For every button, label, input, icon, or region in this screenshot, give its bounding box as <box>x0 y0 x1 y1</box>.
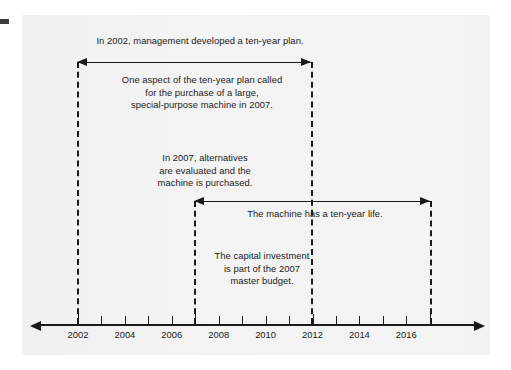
annotation-ten-year-plan: In 2002, management developed a ten-year… <box>0 35 400 48</box>
annotation-plan-aspect: One aspect of the ten-year plan called f… <box>22 74 382 112</box>
axis-tick-2005 <box>148 316 149 324</box>
axis-tick-2006 <box>172 316 173 324</box>
axis-label-2016: 2016 <box>386 329 426 340</box>
time-axis <box>40 324 475 326</box>
axis-tick-2002 <box>78 314 79 324</box>
axis-tick-2007 <box>195 314 196 324</box>
axis-tick-2012 <box>313 314 314 324</box>
span-arrow-machine-life <box>194 201 430 202</box>
marker-line-2002 <box>77 62 79 324</box>
axis-label-2010: 2010 <box>246 329 286 340</box>
axis-tick-2017 <box>430 314 431 324</box>
timeline-figure: In 2002, management developed a ten-year… <box>0 0 511 370</box>
arrowhead-left-icon <box>77 58 87 66</box>
marker-line-2012 <box>311 62 313 324</box>
axis-tick-2011 <box>289 316 290 324</box>
arrowhead-left-icon <box>194 197 204 205</box>
marker-line-2007 <box>194 201 196 324</box>
axis-tick-2009 <box>242 316 243 324</box>
annotation-alternatives: In 2007, alternatives are evaluated and … <box>60 152 350 190</box>
span-arrow-ten-year-plan <box>77 62 311 63</box>
scan-edge-mark <box>0 19 9 24</box>
axis-label-2004: 2004 <box>105 329 145 340</box>
axis-arrowhead-left-icon <box>30 321 41 331</box>
axis-label-2008: 2008 <box>199 329 239 340</box>
axis-label-2014: 2014 <box>339 329 379 340</box>
axis-tick-2013 <box>336 316 337 324</box>
axis-label-2012: 2012 <box>293 329 333 340</box>
annotation-capital-investment: The capital investment is part of the 20… <box>142 250 382 288</box>
marker-line-2017 <box>430 201 432 324</box>
axis-tick-2015 <box>383 316 384 324</box>
axis-tick-2010 <box>266 316 267 324</box>
axis-tick-2003 <box>101 316 102 324</box>
axis-label-2002: 2002 <box>58 329 98 340</box>
axis-tick-2016 <box>406 316 407 324</box>
arrowhead-right-icon <box>420 197 430 205</box>
axis-tick-2014 <box>359 316 360 324</box>
axis-tick-2008 <box>219 316 220 324</box>
axis-label-2006: 2006 <box>152 329 192 340</box>
arrowhead-right-icon <box>301 58 311 66</box>
axis-tick-2004 <box>125 316 126 324</box>
axis-arrowhead-right-icon <box>474 321 485 331</box>
